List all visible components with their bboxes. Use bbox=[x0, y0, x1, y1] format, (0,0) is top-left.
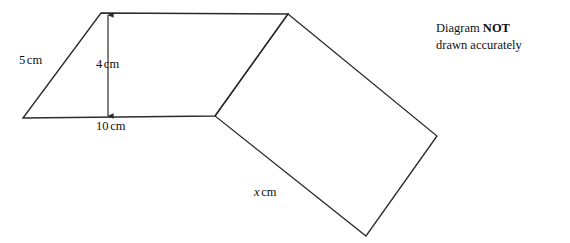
label-base-10cm: 10cm bbox=[96, 120, 126, 133]
note-line-2: drawn accurately bbox=[436, 37, 522, 54]
label-slant-side-value: 5 bbox=[19, 53, 25, 67]
note-line-1-prefix: Diagram bbox=[436, 21, 483, 35]
label-base-unit: cm bbox=[110, 119, 125, 133]
label-unknown-side-value: x bbox=[254, 185, 260, 199]
parallelogram-shape bbox=[23, 13, 288, 118]
note-line-1-emphasis: NOT bbox=[483, 21, 510, 35]
not-drawn-accurately-note: Diagram NOT drawn accurately bbox=[436, 20, 522, 54]
label-height-4cm: 4cm bbox=[96, 58, 119, 71]
label-unknown-side-x-cm: xcm bbox=[254, 186, 277, 199]
label-unknown-side-unit: cm bbox=[261, 185, 276, 199]
label-height-unit: cm bbox=[104, 57, 119, 71]
label-slant-side-5cm: 5cm bbox=[19, 54, 42, 67]
quadrilateral-shape bbox=[215, 14, 437, 236]
label-height-value: 4 bbox=[96, 57, 102, 71]
diagram-canvas: 5cm 4cm 10cm xcm Diagram NOT drawn accur… bbox=[0, 0, 570, 243]
label-slant-side-unit: cm bbox=[27, 53, 42, 67]
label-base-value: 10 bbox=[96, 119, 109, 133]
note-line-1: Diagram NOT bbox=[436, 20, 522, 37]
